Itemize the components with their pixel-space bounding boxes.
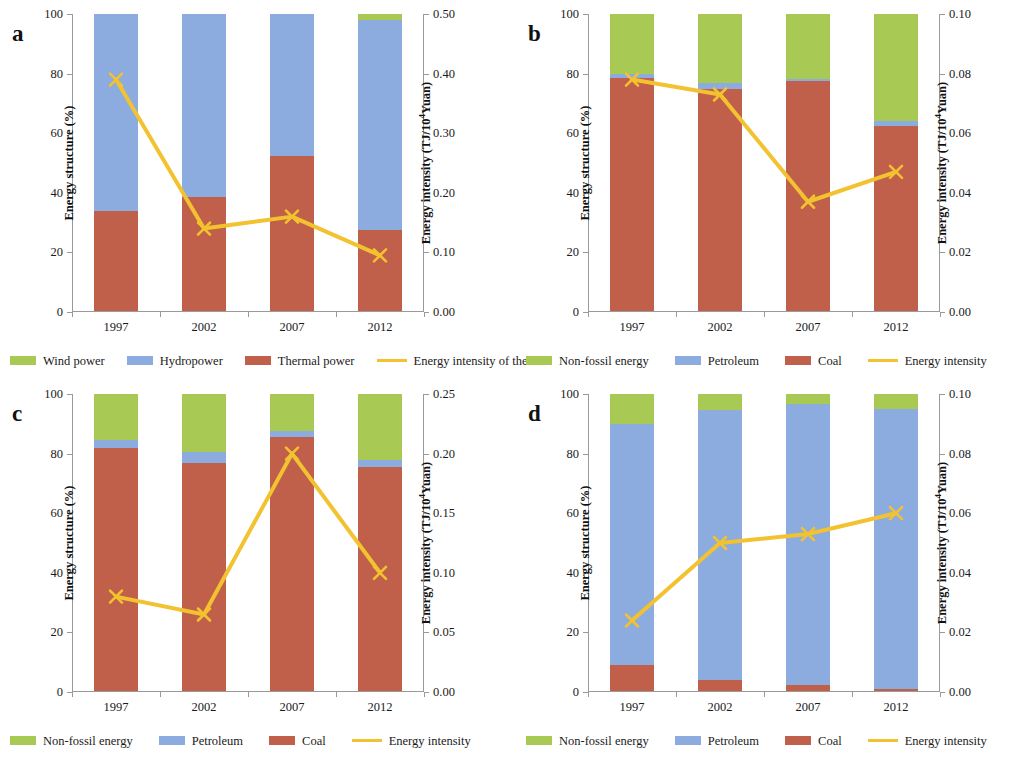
x-axis-tick	[676, 312, 677, 317]
y-axis-tick-label: 20	[51, 246, 64, 259]
line-series-b	[588, 14, 940, 312]
legend-item: Petroleum	[159, 735, 243, 748]
y-axis-tick-label: 0	[57, 686, 63, 699]
x-axis-tick	[676, 692, 677, 697]
legend-item: Petroleum	[675, 355, 759, 368]
legend-label: Petroleum	[708, 735, 759, 748]
legend-color-swatch	[127, 356, 153, 365]
x-axis-tick	[248, 312, 249, 317]
x-axis-tick	[424, 692, 425, 697]
line-series-c	[72, 394, 424, 692]
y-axis-tick-label: 40	[567, 187, 580, 200]
plot-area-a: 0204060801000.000.100.200.300.400.501997…	[72, 14, 424, 312]
legend-color-swatch	[526, 736, 552, 745]
y2-axis-tick-label: 0.00	[949, 306, 971, 319]
y2-axis-tick-label: 0.50	[433, 8, 455, 21]
legend-label: Coal	[818, 735, 842, 748]
x-axis-category-label: 2012	[884, 701, 909, 714]
y2-axis-tick-label: 0.05	[433, 626, 455, 639]
y2-axis-tick-label: 0.02	[949, 246, 971, 259]
y-axis-tick-label: 40	[51, 567, 64, 580]
y-axis-tick-label: 60	[567, 507, 580, 520]
y2-axis-tick-label: 0.30	[433, 127, 455, 140]
x-axis-tick	[852, 312, 853, 317]
x-axis-category-label: 2002	[708, 321, 733, 334]
x-axis-category-label: 1997	[104, 701, 129, 714]
y2-axis-tick	[940, 394, 945, 395]
y2-axis-tick-label: 0.00	[949, 686, 971, 699]
x-axis-tick	[248, 692, 249, 697]
legend-color-swatch	[785, 736, 811, 745]
plot-area-c: 0204060801000.000.050.100.150.200.251997…	[72, 394, 424, 692]
legend-item: Non-fossil energy	[526, 735, 649, 748]
line-marker-x	[626, 614, 638, 626]
y2-axis-tick	[424, 454, 429, 455]
legend-color-swatch	[159, 736, 185, 745]
plot-area-b: 0204060801000.000.020.040.060.080.101997…	[588, 14, 940, 312]
y2-axis-tick-label: 0.25	[433, 388, 455, 401]
x-axis-category-label: 2012	[368, 701, 393, 714]
line-path	[632, 80, 896, 202]
legend-line-swatch	[377, 359, 407, 362]
legend-item: Petroleum	[675, 735, 759, 748]
line-series-d	[588, 394, 940, 692]
legend-color-swatch	[245, 356, 271, 365]
y2-axis-tick-label: 0.04	[949, 187, 971, 200]
legend-line-swatch	[868, 359, 898, 362]
y2-axis-tick-label: 0.20	[433, 447, 455, 460]
y-axis-tick-label: 100	[44, 388, 63, 401]
y2-axis-tick	[424, 74, 429, 75]
x-axis-tick	[424, 312, 425, 317]
legend-b: Non-fossil energyPetroleumCoalEnergy int…	[526, 355, 1022, 368]
y-axis-tick-label: 20	[567, 246, 580, 259]
x-axis-category-label: 2007	[796, 321, 821, 334]
x-axis-category-label: 1997	[620, 701, 645, 714]
x-axis-category-label: 2002	[708, 701, 733, 714]
line-path	[116, 454, 380, 615]
legend-item: Coal	[269, 735, 326, 748]
y2-axis-tick-label: 0.04	[949, 567, 971, 580]
legend-item: Energy intensity	[868, 355, 987, 368]
y2-axis-tick	[424, 394, 429, 395]
x-axis-category-label: 2002	[192, 701, 217, 714]
legend-label: Petroleum	[192, 735, 243, 748]
y-axis-tick-label: 100	[44, 8, 63, 21]
y2-axis-tick-label: 0.10	[433, 567, 455, 580]
y2-axis-tick-label: 0.00	[433, 686, 455, 699]
legend-a: Wind powerHydropowerThermal powerEnergy …	[10, 355, 506, 368]
line-marker-x	[374, 567, 386, 579]
figure-energy-structure-intensity: a 0204060801000.000.100.200.300.400.5019…	[0, 0, 1032, 759]
legend-label: Petroleum	[708, 355, 759, 368]
line-path	[116, 80, 380, 256]
legend-color-swatch	[10, 736, 36, 745]
y2-axis-tick-label: 0.08	[949, 67, 971, 80]
y2-axis-tick	[940, 454, 945, 455]
legend-label: Non-fossil energy	[43, 735, 133, 748]
legend-line-swatch	[352, 739, 382, 742]
x-axis-category-label: 2012	[884, 321, 909, 334]
x-axis-tick	[160, 692, 161, 697]
y2-axis-tick-label: 0.00	[433, 306, 455, 319]
y2-axis-tick-label: 0.06	[949, 507, 971, 520]
legend-label: Non-fossil energy	[559, 355, 649, 368]
y-axis-tick-label: 40	[51, 187, 64, 200]
legend-label: Coal	[818, 355, 842, 368]
legend-color-swatch	[675, 356, 701, 365]
x-axis-tick	[336, 312, 337, 317]
y-axis-tick-label: 80	[567, 447, 580, 460]
legend-line-swatch	[868, 739, 898, 742]
legend-item: Non-fossil energy	[10, 735, 133, 748]
x-axis-category-label: 2002	[192, 321, 217, 334]
y2-axis-tick	[940, 252, 945, 253]
x-axis-tick	[764, 692, 765, 697]
legend-item: Wind power	[10, 355, 105, 368]
y-axis-tick-label: 100	[560, 8, 579, 21]
legend-item: Coal	[785, 735, 842, 748]
plot-area-d: 0204060801000.000.020.040.060.080.101997…	[588, 394, 940, 692]
line-series-a	[72, 14, 424, 312]
legend-color-swatch	[785, 356, 811, 365]
x-axis-tick	[588, 312, 589, 317]
y-axis-tick-label: 100	[560, 388, 579, 401]
legend-label: Wind power	[43, 355, 105, 368]
y-axis-tick-label: 0	[57, 306, 63, 319]
